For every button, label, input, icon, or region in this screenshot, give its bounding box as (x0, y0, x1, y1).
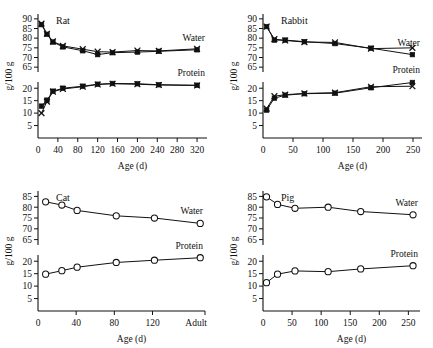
data-point (197, 255, 203, 261)
x-tick-label: 80 (73, 145, 83, 155)
data-point (410, 212, 416, 218)
data-point (292, 205, 298, 211)
y-tick-label: 10 (248, 108, 258, 118)
y-tick-label: 15 (23, 96, 33, 106)
y-tick-label: 65 (23, 235, 33, 245)
x-tick-label-adult: Adult (185, 318, 207, 328)
data-point (197, 220, 203, 226)
x-tick-label: 0 (261, 145, 266, 155)
x-tick-label: 50 (288, 145, 298, 155)
y-axis-title: g/100 g (229, 236, 239, 265)
series-line-protein (266, 266, 413, 283)
data-point (43, 271, 49, 277)
data-point (274, 201, 280, 207)
series-label-water: Water (183, 33, 206, 43)
x-tick-label: 150 (346, 145, 361, 155)
x-tick-label: 250 (401, 318, 416, 328)
data-point (39, 110, 45, 116)
data-point (358, 266, 364, 272)
series-label-protein: Protein (391, 249, 419, 259)
panel-title: Pig (281, 192, 294, 203)
panel-title: Cat (56, 192, 70, 203)
series-label-protein: Protein (393, 65, 421, 75)
panel-rat: 6570758085905101520040801201602002402803… (0, 0, 218, 175)
y-tick-label: 80 (23, 203, 33, 213)
panel-title: Rabbit (281, 15, 308, 26)
x-tick-label: 250 (406, 145, 421, 155)
y-tick-label: 85 (23, 192, 33, 202)
y-tick-label: 5 (252, 121, 257, 131)
y-tick-label: 10 (23, 281, 33, 291)
y-tick-label: 65 (248, 62, 258, 72)
data-point (325, 269, 331, 275)
data-point (263, 280, 269, 286)
y-tick-label: 20 (23, 84, 33, 94)
x-tick-label: 280 (170, 145, 185, 155)
x-tick-label: 40 (53, 145, 63, 155)
data-point (358, 208, 364, 214)
y-tick-label: 5 (252, 294, 257, 304)
y-tick-label: 85 (248, 24, 258, 34)
x-tick-label: 0 (36, 318, 41, 328)
x-tick-label: 0 (36, 145, 41, 155)
y-tick-label: 20 (23, 257, 33, 267)
y-tick-label: 5 (27, 294, 32, 304)
series-line-protein (46, 258, 201, 274)
y-tick-label: 85 (248, 192, 258, 202)
y-tick-label: 75 (23, 43, 33, 53)
panel-rabbit: 6570758085905101520050100150200250Rabbit… (215, 0, 433, 175)
y-tick-label: 15 (248, 269, 258, 279)
data-point (325, 204, 331, 210)
x-tick-label: 160 (110, 145, 125, 155)
data-point (410, 52, 415, 57)
y-tick-label: 80 (248, 33, 258, 43)
y-tick-label: 80 (248, 203, 258, 213)
x-axis-title: Age (d) (338, 161, 367, 172)
series-line-water (46, 202, 201, 224)
data-point (410, 263, 416, 269)
y-tick-label: 20 (248, 84, 258, 94)
y-tick-label: 15 (23, 269, 33, 279)
series-line-water (267, 27, 413, 49)
panel-pig: 65707580855101520050100150200250Pigg/100… (215, 175, 433, 348)
x-tick-label: 80 (110, 318, 120, 328)
x-tick-label: 120 (91, 145, 106, 155)
y-tick-label: 75 (248, 213, 258, 223)
y-axis-title: g/100 g (4, 236, 14, 265)
y-tick-label: 90 (248, 14, 258, 24)
y-tick-label: 70 (248, 53, 258, 63)
x-tick-label: 200 (372, 318, 387, 328)
data-point (59, 268, 65, 274)
y-tick-label: 65 (23, 62, 33, 72)
x-tick-label: 150 (343, 318, 358, 328)
series-label-water: Water (181, 206, 204, 216)
y-tick-label: 80 (23, 33, 33, 43)
x-tick-label: 200 (130, 145, 145, 155)
x-tick-label: 100 (316, 145, 331, 155)
x-tick-label: 0 (261, 318, 266, 328)
panel-cat: 6570758085510152004080120AdultCatg/100 g… (0, 175, 218, 348)
y-tick-label: 10 (23, 108, 33, 118)
series-label-protein: Protein (178, 68, 206, 78)
series-label-protein: Protein (176, 241, 204, 251)
y-tick-label: 75 (23, 213, 33, 223)
y-axis-title: g/100 g (4, 61, 14, 90)
x-tick-label: 120 (145, 318, 160, 328)
data-point (74, 207, 80, 213)
series-label-water: Water (396, 198, 419, 208)
y-tick-label: 90 (23, 14, 33, 24)
data-point (59, 202, 65, 208)
x-tick-label: 40 (71, 318, 81, 328)
y-tick-label: 15 (248, 96, 258, 106)
data-point (292, 268, 298, 274)
y-tick-label: 70 (23, 224, 33, 234)
x-tick-label: 320 (190, 145, 205, 155)
x-tick-label: 50 (287, 318, 297, 328)
data-point (113, 213, 119, 219)
data-point (274, 271, 280, 277)
y-tick-label: 70 (23, 53, 33, 63)
x-tick-label: 240 (150, 145, 165, 155)
figure-body-composition-vs-age: 6570758085905101520040801201602002402803… (0, 0, 433, 348)
x-tick-label: 200 (376, 145, 391, 155)
data-point (151, 257, 157, 263)
